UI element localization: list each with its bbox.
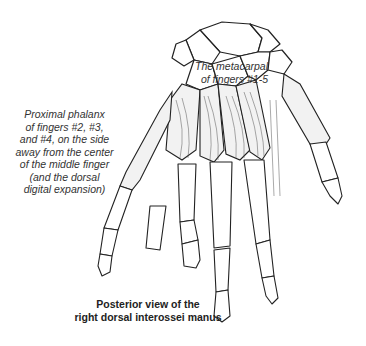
proximal-label-line-2: of fingers #2, #3, <box>2 121 127 134</box>
proximal-label-line-6: (and the dorsal <box>2 171 127 184</box>
proximal-label-line-1: Proximal phalanx <box>2 108 127 121</box>
proximal-label-line-3: and #4, on the side <box>2 133 127 146</box>
proximal-label-line-7: digital expansion) <box>2 183 127 196</box>
metacarpal-label-line-2: of fingers #1-5 <box>160 73 268 86</box>
caption-line-2: right dorsal interossei manus <box>38 311 258 324</box>
caption-line-1: Posterior view of the <box>38 298 258 311</box>
proximal-label-line-5: of the middle finger <box>2 158 127 171</box>
proximal-phalanx-label: Proximal phalanx of fingers #2, #3, and … <box>2 108 127 196</box>
proximal-label-line-4: away from the center <box>2 146 127 159</box>
figure-caption: Posterior view of the right dorsal inter… <box>38 298 258 324</box>
hand-anatomy-figure: The metacarpal of fingers #1-5 Proximal … <box>0 0 366 346</box>
metacarpal-label-line-1: The metacarpal <box>160 60 268 73</box>
metacarpal-label: The metacarpal of fingers #1-5 <box>160 60 268 85</box>
